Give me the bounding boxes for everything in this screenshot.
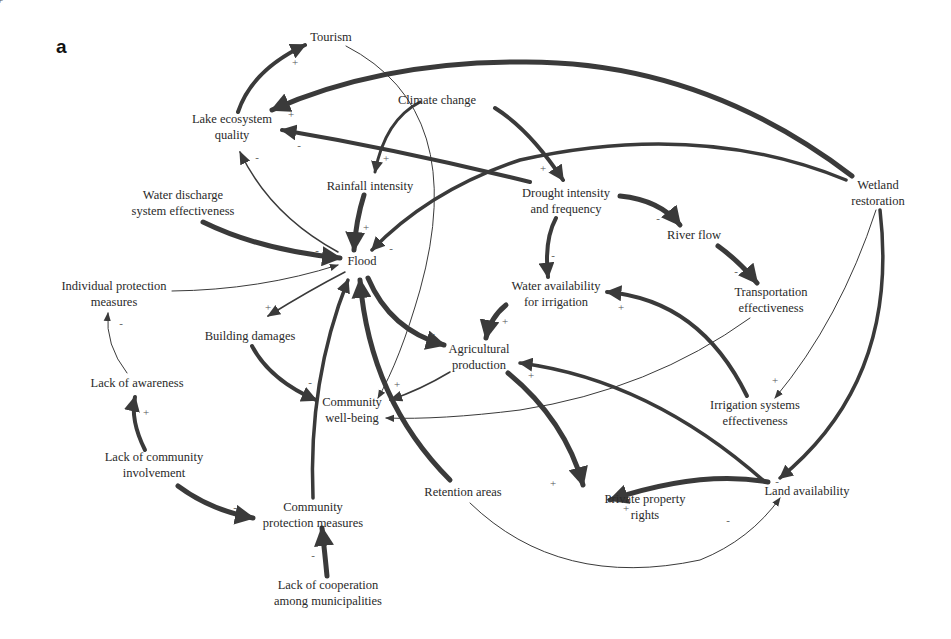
node-building: Building damages <box>205 328 296 344</box>
node-irrig_sys: Irrigation systems effectiveness <box>710 397 800 429</box>
edge-discharge-to-flood <box>203 222 340 258</box>
polarity-sign: - <box>255 151 259 163</box>
polarity-sign: - <box>726 514 730 526</box>
edge-flood-to-lake <box>240 152 338 252</box>
node-retention: Retention areas <box>424 484 501 500</box>
node-involvement: Lack of community involvement <box>105 449 204 481</box>
polarity-sign: - <box>431 327 435 339</box>
node-comm_protect: Community protection measures <box>263 499 363 531</box>
polarity-sign: + <box>528 369 534 381</box>
node-rainfall: Rainfall intensity <box>327 178 413 194</box>
polarity-sign: + <box>383 152 389 164</box>
edge-wetland-to-land <box>780 210 883 478</box>
edge-climate-to-rainfall <box>375 102 420 172</box>
edge-involvement-to-comm_protect <box>178 486 253 518</box>
node-discharge: Water discharge system effectiveness <box>132 187 235 219</box>
node-tourism: Tourism <box>310 29 352 45</box>
polarity-sign: - <box>389 242 393 254</box>
polarity-sign: - <box>119 317 123 329</box>
edge-awareness-to-individual <box>108 313 127 373</box>
polarity-sign: - <box>775 475 779 487</box>
polarity-sign: - <box>308 376 312 388</box>
node-flood: Flood <box>347 253 376 269</box>
polarity-sign: - <box>233 501 237 513</box>
node-awareness: Lack of awareness <box>90 375 183 391</box>
node-cooperation: Lack of cooperation among municipalities <box>274 577 382 609</box>
polarity-sign: + <box>502 315 508 327</box>
edge-cooperation-to-comm_protect <box>322 528 327 576</box>
polarity-sign: - <box>315 244 319 256</box>
polarity-sign: - <box>297 139 301 151</box>
edge-drought-to-lake <box>282 130 530 182</box>
node-drought: Drought intensity and frequency <box>522 185 610 217</box>
node-wellbeing: Community well-being <box>322 394 382 426</box>
polarity-sign: + <box>540 162 546 174</box>
node-property: Private property rights <box>605 491 686 523</box>
edge-individual-to-flood <box>172 265 338 291</box>
edge-building-to-wellbeing <box>252 346 316 400</box>
polarity-sign: - <box>656 212 660 224</box>
edge-flood-to-building <box>268 272 345 316</box>
edge-agri-to-property <box>508 373 583 485</box>
polarity-sign: + <box>265 301 271 313</box>
polarity-sign: + <box>143 406 149 418</box>
polarity-sign: - <box>551 249 555 261</box>
polarity-sign: + <box>0 0 3 6</box>
polarity-sign: + <box>292 56 298 68</box>
node-lake: Lake ecosystem quality <box>192 111 272 143</box>
edge-drought-to-water_irr <box>547 218 556 277</box>
polarity-sign: + <box>363 221 369 233</box>
edge-climate-to-drought <box>495 108 563 180</box>
edge-drought-to-river <box>620 196 680 225</box>
edge-irrig_sys-to-water_irr <box>607 292 747 396</box>
causal-loop-diagram: a TourismLake ecosystem qualityClimate c… <box>0 0 951 639</box>
panel-label: a <box>56 36 67 58</box>
edge-wetland-to-lake <box>272 62 852 176</box>
edge-involvement-to-awareness <box>134 397 145 450</box>
polarity-sign: - <box>311 549 315 561</box>
polarity-sign: + <box>623 502 629 514</box>
edge-transport-to-wellbeing <box>386 318 750 418</box>
polarity-sign: + <box>772 374 778 386</box>
node-wetland: Wetland restoration <box>851 177 904 209</box>
polarity-sign: - <box>734 265 738 277</box>
polarity-sign: + <box>394 378 400 390</box>
node-river: River flow <box>667 227 721 243</box>
polarity-sign: + <box>550 477 556 489</box>
polarity-sign: + <box>618 301 624 313</box>
node-agri: Agricultural production <box>448 341 509 373</box>
edge-comm_protect-to-flood <box>312 280 348 498</box>
node-transport: Transportation effectiveness <box>734 284 807 316</box>
node-water_irr: Water availability for irrigation <box>512 278 601 310</box>
node-individual: Individual protection measures <box>61 278 166 310</box>
node-climate: Climate change <box>398 92 476 108</box>
polarity-sign: + <box>288 108 294 120</box>
